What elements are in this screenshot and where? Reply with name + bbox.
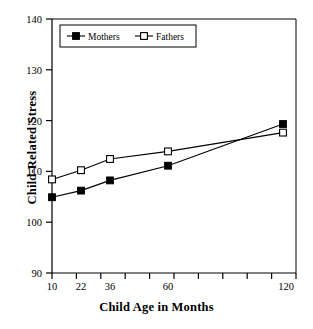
chart-legend: Mothers Fathers <box>60 25 196 47</box>
line-mothers <box>52 124 283 197</box>
data-point-fathers-10 <box>49 176 56 183</box>
series-mothers <box>49 121 287 201</box>
x-tick-label-120: 120 <box>278 281 294 292</box>
data-point-mothers-120 <box>280 121 287 128</box>
series-fathers <box>49 129 287 183</box>
data-point-mothers-60 <box>165 162 172 169</box>
data-point-fathers-120 <box>280 129 287 136</box>
x-tick-label-10: 10 <box>47 281 58 292</box>
y-tick-label-90: 90 <box>32 268 43 279</box>
data-point-mothers-36 <box>107 177 114 184</box>
line-fathers <box>52 133 283 180</box>
x-tick-marks <box>52 273 296 279</box>
y-tick-marks <box>46 19 52 273</box>
data-point-fathers-60 <box>165 148 172 155</box>
x-tick-label-22: 22 <box>76 281 87 292</box>
y-tick-label-100: 100 <box>26 217 42 228</box>
x-tick-label-60: 60 <box>163 281 174 292</box>
legend-marker-mothers <box>73 33 80 40</box>
data-point-mothers-22 <box>78 187 85 194</box>
x-tick-label-36: 36 <box>105 281 116 292</box>
y-tick-label-140: 140 <box>26 14 42 25</box>
plot-area: 140 130 120 110 100 90 10 22 36 60 120 <box>0 0 313 329</box>
legend-label-fathers: Fathers <box>156 32 184 42</box>
y-tick-label-110: 110 <box>27 166 42 177</box>
legend-label-mothers: Mothers <box>88 32 120 42</box>
data-point-fathers-22 <box>78 167 85 174</box>
data-point-fathers-36 <box>107 156 114 163</box>
y-tick-label-130: 130 <box>26 65 42 76</box>
data-point-mothers-10 <box>49 194 56 201</box>
legend-marker-fathers <box>141 33 148 40</box>
chart-figure: Child-Related Stress Child Age in Months… <box>0 0 313 329</box>
y-tick-label-120: 120 <box>26 116 42 127</box>
